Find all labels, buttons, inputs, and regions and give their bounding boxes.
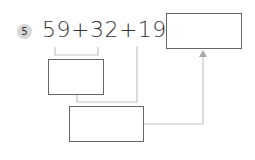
- answer-box[interactable]: [166, 13, 242, 49]
- step2-box[interactable]: [69, 106, 144, 142]
- step2-to-answer-connector: [144, 56, 203, 124]
- arrow-up-icon: [199, 50, 207, 57]
- bracket-line: [55, 47, 98, 55]
- step1-box[interactable]: [48, 59, 104, 95]
